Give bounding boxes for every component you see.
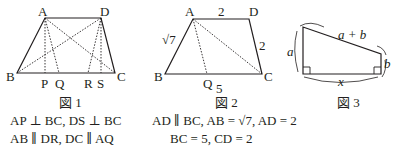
point-label-q: Q <box>55 77 64 90</box>
point-label-a: A <box>38 5 47 18</box>
figure-1-caption: 図 1 <box>59 96 82 109</box>
point-label-c: C <box>264 70 273 83</box>
side-label-ad: 2 <box>218 5 225 18</box>
point-label-d: D <box>100 5 109 18</box>
side-label-top: a + b <box>338 28 366 41</box>
point-label-b: B <box>6 70 15 83</box>
figure-3-caption: 図 3 <box>337 96 360 109</box>
figure-2-condition-2: BC = 5, CD = 2 <box>170 132 253 145</box>
point-label-q: Q <box>203 77 212 90</box>
side-label-right: b <box>384 57 391 70</box>
figure-1-drawing <box>17 18 115 73</box>
figure-1-condition-1: AP ⊥ BC, DS ⊥ BC <box>10 114 121 127</box>
point-label-d: D <box>249 5 258 18</box>
side-label-ab: √7 <box>162 33 176 46</box>
figure-2-condition-1: AD ∥ BC, AB = √7, AD = 2 <box>152 114 297 127</box>
side-label-left: a <box>287 45 294 58</box>
point-label-s: S <box>97 77 104 90</box>
point-label-p: P <box>41 77 48 90</box>
side-label-bottom: x <box>338 75 344 88</box>
side-label-bc: 5 <box>216 82 223 95</box>
figure-1-condition-2: AB ∥ DR, DC ∥ AQ <box>10 132 114 145</box>
point-label-c: C <box>117 70 126 83</box>
side-label-cd: 2 <box>259 39 266 52</box>
point-label-b: B <box>154 70 163 83</box>
figure-2-caption: 図 2 <box>215 96 238 109</box>
figure-2-drawing <box>165 19 262 74</box>
point-label-a: A <box>185 5 194 18</box>
point-label-r: R <box>84 77 93 90</box>
